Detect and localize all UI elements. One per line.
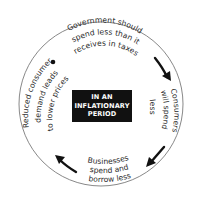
arrow-consumers-to-businesses-icon [146, 147, 164, 167]
arrow-government-to-consumers-icon [155, 58, 171, 81]
stage-businesses: Businesses spend and borrow less [87, 153, 132, 184]
center-label-box: IN AN INFLATIONARY PERIOD [72, 90, 132, 122]
arrow-businesses-to-reduced-demand-icon [55, 155, 76, 172]
inflation-cycle-diagram: Government should spend less than it rec… [0, 0, 203, 206]
stage-government: Government should spend less than it rec… [66, 15, 145, 58]
center-label-line-2: INFLATIONARY [72, 102, 132, 111]
svg-text:will spend: will spend [159, 89, 171, 130]
stage-reduced-demand: Reduced consumer demand leads to lower p… [21, 56, 70, 132]
svg-text:less: less [148, 99, 158, 115]
stage-consumers-line-3: less [148, 99, 158, 115]
stage-consumers: Consumers will spend less [148, 87, 182, 133]
center-label-line-1: IN AN [72, 93, 132, 102]
stage-consumers-line-2: will spend [159, 89, 171, 130]
center-label-line-3: PERIOD [72, 110, 132, 119]
